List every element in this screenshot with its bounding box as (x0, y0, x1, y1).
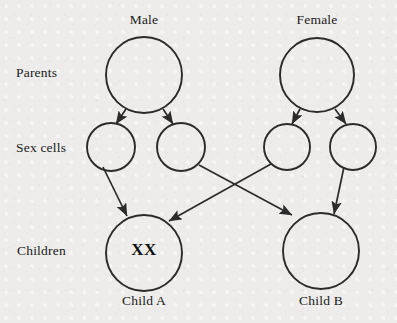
node-female-parent[interactable] (280, 38, 354, 112)
node-egg-1[interactable] (264, 124, 310, 170)
caption-child-a: Child A (104, 293, 184, 309)
genotype-child-a: XX (104, 240, 184, 260)
caption-child-b: Child B (281, 293, 361, 309)
node-male-parent[interactable] (106, 37, 182, 113)
caption-male-parent: Male (104, 12, 184, 28)
arrow-female-to-egg-1 (292, 109, 300, 124)
node-sperm-1[interactable] (87, 123, 135, 171)
arrow-group-sexcells-to-children (103, 164, 344, 221)
node-egg-2[interactable] (330, 124, 376, 170)
arrow-sperm-2-to-child-b (199, 165, 292, 215)
row-label-children: Children (17, 243, 66, 259)
arrow-female-to-egg-2 (335, 109, 346, 124)
node-group-sex-cells (87, 123, 376, 171)
inheritance-diagram: Parents Sex cells Children Male Female C… (0, 0, 397, 323)
arrow-male-to-sperm-2 (163, 109, 173, 124)
arrow-egg-2-to-child-b (334, 167, 344, 214)
node-child-b[interactable] (283, 213, 359, 289)
arrow-male-to-sperm-1 (116, 109, 126, 124)
row-label-parents: Parents (16, 65, 57, 81)
arrow-egg-1-to-child-a (169, 164, 271, 221)
row-label-sex-cells: Sex cells (16, 140, 66, 156)
diagram-canvas (0, 0, 397, 323)
node-sperm-2[interactable] (157, 123, 205, 171)
node-group-parents (106, 37, 354, 113)
arrow-sperm-1-to-child-a (103, 167, 127, 216)
caption-female-parent: Female (277, 12, 357, 28)
